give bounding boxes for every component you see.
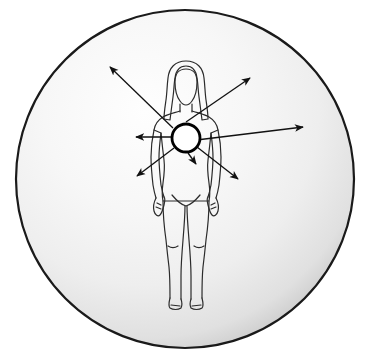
energy-radiation-diagram bbox=[0, 0, 375, 360]
solar-plexus-circle bbox=[172, 124, 200, 152]
diagram-canvas bbox=[0, 0, 375, 360]
